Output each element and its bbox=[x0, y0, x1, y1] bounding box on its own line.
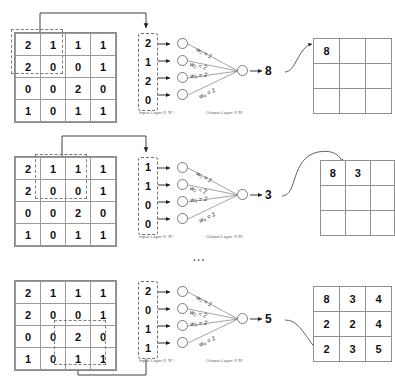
input-vector-cell: 2 bbox=[145, 76, 151, 87]
input-neuron bbox=[177, 72, 188, 83]
feature-map-row: 2 3 5 bbox=[314, 337, 392, 362]
matrix-cell: 0 bbox=[91, 78, 116, 100]
feature-map-row: 8 3 bbox=[321, 161, 395, 186]
row3-vector-to-neuron-arrows bbox=[158, 292, 170, 343]
input-neuron bbox=[177, 320, 188, 331]
feature-map-row: 8 bbox=[314, 39, 392, 64]
input-vector-cell: 1 bbox=[145, 57, 151, 68]
input-neuron bbox=[177, 286, 188, 297]
matrix-cell: 0 bbox=[41, 202, 66, 224]
input-neuron bbox=[177, 38, 188, 49]
feature-map-cell bbox=[370, 211, 394, 236]
feature-map-cell bbox=[366, 89, 392, 114]
feature-map-cell bbox=[321, 211, 346, 236]
feature-map-row: 8 3 4 bbox=[314, 287, 392, 312]
input-vector-cell: 1 bbox=[145, 343, 151, 354]
input-vector-cell: 1 bbox=[145, 324, 151, 335]
weight-label-w2: w₂ = 2 bbox=[189, 308, 207, 319]
input-vector-cell: 0 bbox=[145, 305, 151, 316]
output-value-step-3: 5 bbox=[265, 312, 272, 326]
feature-map-cell bbox=[345, 186, 370, 211]
matrix-cell: 1 bbox=[91, 158, 116, 180]
matrix-row: 0 0 2 0 bbox=[16, 202, 116, 224]
matrix-row: 1 0 1 1 bbox=[16, 100, 116, 122]
feature-map-cell bbox=[340, 89, 366, 114]
input-neuron bbox=[177, 89, 188, 100]
diagram-canvas: 2 1 1 1 2 0 0 1 0 0 2 0 1 0 1 1 bbox=[0, 0, 395, 388]
feature-map-cell: 3 bbox=[345, 161, 370, 186]
input-vector-step-3: 2 0 1 1 bbox=[138, 281, 158, 359]
matrix-cell: 0 bbox=[41, 100, 66, 122]
input-neuron bbox=[177, 162, 188, 173]
input-vector-cell: 0 bbox=[145, 219, 151, 230]
matrix-cell: 2 bbox=[66, 202, 91, 224]
matrix-cell: 1 bbox=[91, 180, 116, 202]
matrix-cell: 0 bbox=[66, 56, 91, 78]
feature-map-row: 2 2 4 bbox=[314, 312, 392, 337]
matrix-cell: 0 bbox=[91, 202, 116, 224]
feature-map-cell: 3 bbox=[340, 337, 366, 362]
matrix-cell: 1 bbox=[91, 100, 116, 122]
weight-label-w3: w₃ = 2 bbox=[190, 319, 208, 327]
matrix-cell: 1 bbox=[91, 56, 116, 78]
input-vector-cell: 1 bbox=[145, 181, 151, 192]
matrix-row: 1 0 1 1 bbox=[16, 224, 116, 246]
matrix-cell: 2 bbox=[66, 78, 91, 100]
weight-label-w1: w₁ = 1 bbox=[195, 293, 213, 307]
row1-vector-to-neuron-arrows bbox=[158, 44, 170, 95]
input-neuron bbox=[177, 179, 188, 190]
feature-map-cell: 3 bbox=[340, 287, 366, 312]
feature-map-cell bbox=[314, 89, 340, 114]
matrix-cell: 0 bbox=[16, 326, 41, 348]
weight-label-w2: w₂ = 2 bbox=[189, 60, 207, 71]
feature-map-row bbox=[314, 64, 392, 89]
matrix-cell: 1 bbox=[16, 100, 41, 122]
feature-map-step-2: 8 3 bbox=[320, 160, 395, 236]
feature-map-step-3: 8 3 4 2 2 4 2 3 5 bbox=[313, 286, 392, 362]
input-layer-label: Input Layer ∈ ℜ⁴ bbox=[139, 234, 173, 239]
matrix-cell: 0 bbox=[16, 78, 41, 100]
weight-label-w1: w₁ = 1 bbox=[195, 45, 213, 59]
output-neuron bbox=[237, 313, 248, 324]
input-vector-cell: 2 bbox=[145, 38, 151, 49]
weight-label-w4: w₄ = 1 bbox=[198, 86, 217, 99]
weight-label-w3: w₃ = 2 bbox=[190, 195, 208, 203]
feature-map-row bbox=[314, 89, 392, 114]
input-vector-cell: 2 bbox=[145, 286, 151, 297]
input-vector-cell: 0 bbox=[145, 95, 151, 106]
input-vector-cell: 0 bbox=[145, 200, 151, 211]
input-neuron bbox=[177, 213, 188, 224]
weight-label-w4: w₄ = 1 bbox=[198, 210, 217, 223]
matrix-cell: 1 bbox=[91, 224, 116, 246]
feature-map-cell bbox=[366, 64, 392, 89]
weight-label-w3: w₃ = 2 bbox=[190, 71, 208, 79]
input-neuron bbox=[177, 196, 188, 207]
matrix-cell: 0 bbox=[41, 224, 66, 246]
feature-map-step-1: 8 bbox=[313, 38, 392, 114]
input-vector-step-1: 2 1 2 0 bbox=[138, 33, 158, 111]
weight-label-w1: w₁ = 1 bbox=[195, 169, 213, 183]
matrix-cell: 1 bbox=[91, 282, 116, 304]
feature-map-cell bbox=[366, 39, 392, 64]
feature-map-cell bbox=[340, 39, 366, 64]
convolution-window-step-3 bbox=[54, 320, 106, 365]
matrix-cell: 1 bbox=[16, 348, 41, 370]
feature-map-cell: 4 bbox=[366, 287, 392, 312]
input-neuron bbox=[177, 303, 188, 314]
row2-vector-to-neuron-arrows bbox=[158, 168, 170, 219]
feature-map-row bbox=[321, 211, 395, 236]
row1-result-curve bbox=[285, 44, 312, 72]
matrix-cell: 2 bbox=[16, 304, 41, 326]
output-layer-label: Output Layer ∈ ℜ¹ bbox=[206, 358, 243, 363]
input-neuron bbox=[177, 337, 188, 348]
matrix-cell: 0 bbox=[41, 78, 66, 100]
matrix-cell: 1 bbox=[66, 34, 91, 56]
output-layer-label: Output Layer ∈ ℜ¹ bbox=[206, 110, 243, 115]
output-neuron bbox=[237, 65, 248, 76]
feature-map-cell: 8 bbox=[314, 287, 340, 312]
matrix-cell: 2 bbox=[16, 282, 41, 304]
feature-map-cell bbox=[321, 186, 346, 211]
input-vector-cell: 1 bbox=[145, 162, 151, 173]
output-layer-label: Output Layer ∈ ℜ¹ bbox=[206, 234, 243, 239]
convolution-window-step-2 bbox=[35, 154, 87, 199]
